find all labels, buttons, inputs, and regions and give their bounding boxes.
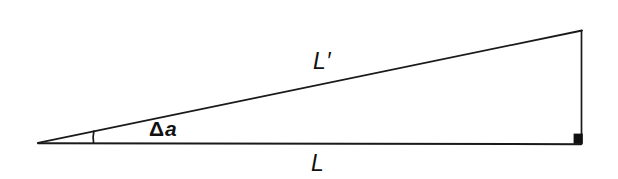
hypotenuse-edge-line (38, 31, 582, 143)
angle-arc-icon (93, 131, 94, 143)
angle-label: Δa (149, 118, 177, 139)
delta-symbol: Δ (149, 117, 164, 140)
base-edge-line (38, 143, 581, 144)
right-angle-marker-icon (574, 134, 583, 144)
base-label: L (311, 152, 324, 175)
diagram-canvas: L′ Δa L (0, 0, 618, 179)
hypotenuse-label: L′ (313, 50, 331, 73)
triangle-diagram-svg (0, 0, 618, 179)
angle-variable: a (165, 117, 177, 140)
